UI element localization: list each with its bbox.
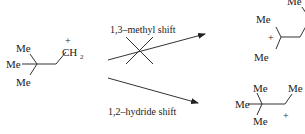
reaction-scheme: Me Me Me CH 2 + 1,3–methyl shift 1,2–hyd… [0,0,305,134]
methyl-label: Me [16,42,31,54]
methyl-label: Me [6,58,21,70]
ch2-label: CH [62,46,77,58]
arrow-hydride-shift [108,78,198,103]
arrow-methyl-shift [108,34,205,60]
bond [276,37,281,49]
bond [300,19,305,37]
methyl-label: Me [254,51,269,63]
ch2-subscript: 2 [80,53,84,61]
methyl-label: Me [253,82,268,94]
product-hydride-shift: Me Me Me Me + [235,82,303,127]
methyl-label: Me [16,76,31,88]
bond [302,7,305,19]
reactant-neopentyl-cation: Me Me Me CH 2 + [6,35,84,88]
methyl-label: Me [235,98,250,110]
methyl-shift-label: 1,3–methyl shift [110,24,176,35]
methyl-label: Me [288,82,303,94]
methyl-label: Me [253,115,268,127]
pathway-hydride-shift: 1,2–hydride shift [108,78,198,117]
bond [257,104,262,115]
hydride-shift-label: 1,2–hydride shift [108,106,177,117]
bond [30,54,37,64]
methyl-label: Me [256,13,271,25]
product-methyl-shift: Me Me Me + [254,0,305,63]
positive-charge: + [65,35,71,46]
pathway-methyl-shift: 1,3–methyl shift [108,24,205,64]
bond [257,93,262,104]
positive-charge: + [283,110,289,121]
bond [276,27,281,37]
bond [285,94,292,104]
positive-charge: + [268,32,274,43]
methyl-label: Me [287,0,302,7]
bond [30,64,37,75]
